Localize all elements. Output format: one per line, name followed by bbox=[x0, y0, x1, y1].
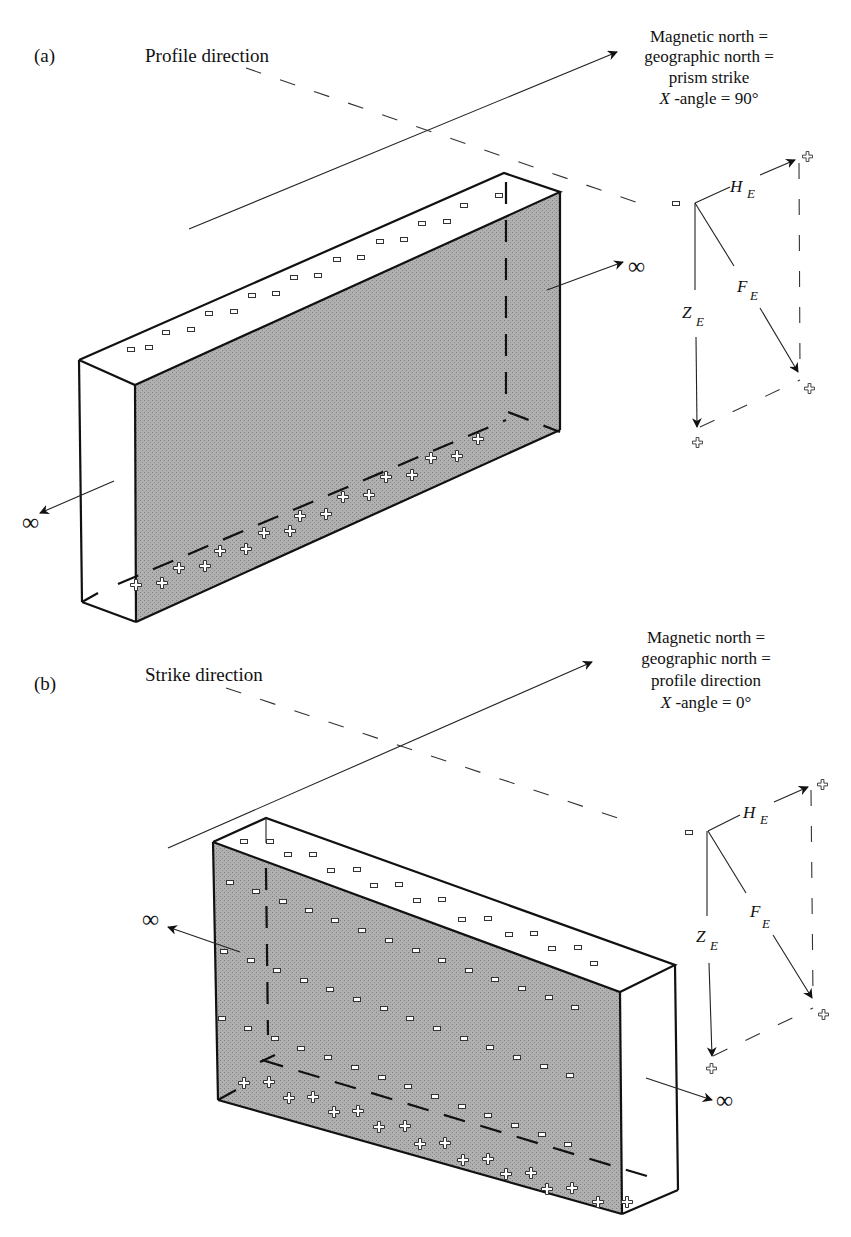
svg-text:F: F bbox=[749, 902, 761, 921]
prism-a bbox=[79, 173, 560, 622]
svg-text:geographic north =: geographic north = bbox=[641, 649, 771, 668]
magnetized-prism-diagram: (a) Profile direction Magnetic north = g… bbox=[0, 0, 851, 1237]
profile-direction-line bbox=[246, 68, 650, 207]
svg-text:H: H bbox=[729, 177, 744, 196]
panel-a-label: (a) bbox=[34, 45, 55, 67]
svg-text:Z: Z bbox=[696, 927, 706, 946]
svg-text:Z: Z bbox=[682, 303, 692, 322]
north-caption-a: Magnetic north = geographic north = pris… bbox=[644, 27, 774, 108]
infinity-symbol-right-a: ∞ bbox=[628, 253, 645, 279]
panel-a: (a) Profile direction Magnetic north = g… bbox=[22, 27, 815, 622]
svg-text:E: E bbox=[759, 812, 768, 827]
svg-text:prism strike: prism strike bbox=[669, 68, 750, 87]
north-caption-b: Magnetic north = geographic north = prof… bbox=[641, 628, 771, 712]
strike-direction-line bbox=[226, 688, 630, 822]
profile-direction-label: Profile direction bbox=[145, 45, 269, 66]
svg-text:X -angle = 0°: X -angle = 0° bbox=[660, 693, 752, 712]
svg-text:geographic north =: geographic north = bbox=[644, 47, 774, 66]
svg-text:E: E bbox=[709, 938, 718, 953]
infinity-symbol-left-b: ∞ bbox=[142, 906, 159, 932]
infinity-symbol-right-b: ∞ bbox=[716, 1087, 733, 1113]
svg-text:profile direction: profile direction bbox=[651, 671, 761, 690]
svg-text:E: E bbox=[761, 916, 770, 931]
svg-text:X -angle = 90°: X -angle = 90° bbox=[658, 89, 758, 108]
svg-text:Magnetic north =: Magnetic north = bbox=[647, 628, 765, 647]
svg-text:Magnetic north =: Magnetic north = bbox=[650, 27, 768, 46]
infinity-symbol-left-a: ∞ bbox=[22, 509, 39, 535]
panel-b-label: (b) bbox=[34, 673, 56, 695]
prism-b bbox=[213, 818, 678, 1214]
svg-text:E: E bbox=[695, 314, 704, 329]
field-vectors-a: H E F E Z E bbox=[673, 151, 815, 447]
svg-text:E: E bbox=[749, 288, 758, 303]
svg-text:E: E bbox=[746, 186, 755, 201]
svg-text:F: F bbox=[736, 277, 748, 296]
strike-direction-label: Strike direction bbox=[145, 664, 263, 685]
field-vectors-b: H E F E Z E bbox=[686, 779, 829, 1073]
panel-b: (b) Strike direction Magnetic north = ge… bbox=[34, 628, 829, 1214]
svg-text:H: H bbox=[742, 803, 757, 822]
